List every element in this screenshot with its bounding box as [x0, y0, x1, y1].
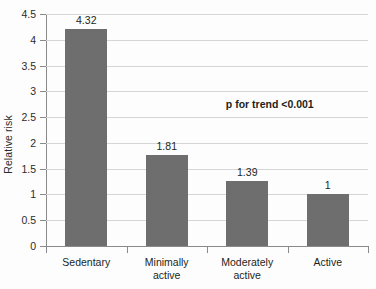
x-axis-category-label-line: Moderately [207, 256, 288, 269]
bar-value-label: 1.81 [137, 141, 197, 152]
y-axis-tick-label: 4 [0, 35, 36, 46]
y-axis-tick-label: 0.5 [0, 215, 36, 226]
x-axis-category-label-line: active [127, 269, 208, 282]
y-axis-tick-label: 2 [0, 138, 36, 149]
y-axis-tick-label: 2.5 [0, 112, 36, 123]
x-axis-category-label-line: Active [288, 256, 369, 269]
bar [146, 155, 188, 246]
bar-value-label: 1 [298, 180, 358, 191]
bar [65, 29, 107, 246]
p-trend-annotation: p for trend <0.001 [226, 98, 314, 110]
y-axis-tick-label: 1.5 [0, 164, 36, 175]
x-axis-category-label-line: Sedentary [46, 256, 127, 269]
y-axis-tick-label: 1 [0, 189, 36, 200]
x-axis-separator [127, 246, 128, 253]
bar-chart: Relative risk 00.511.522.533.544.5 4.321… [0, 0, 376, 289]
bar [307, 194, 349, 246]
y-axis-tick-label: 4.5 [0, 9, 36, 20]
x-axis-separator [288, 246, 289, 253]
bar-value-label: 1.39 [217, 167, 277, 178]
bar-value-label: 4.32 [56, 15, 116, 26]
x-axis-category-label: Active [288, 256, 369, 269]
plot-area: 4.321.811.391 p for trend <0.001 [46, 14, 368, 246]
x-axis-category-label-line: Minimally [127, 256, 208, 269]
bar [226, 181, 268, 246]
x-axis-separator [207, 246, 208, 253]
x-axis-category-label: Minimallyactive [127, 256, 208, 282]
y-axis-tick-label: 3.5 [0, 61, 36, 72]
x-axis-category-label: Sedentary [46, 256, 127, 269]
x-axis-category-label-line: active [207, 269, 288, 282]
x-axis-separator [368, 246, 369, 253]
y-axis-tick-label: 3 [0, 86, 36, 97]
y-axis-tick-label: 0 [0, 241, 36, 252]
x-axis-category-label: Moderatelyactive [207, 256, 288, 282]
x-axis-separator [46, 246, 47, 253]
